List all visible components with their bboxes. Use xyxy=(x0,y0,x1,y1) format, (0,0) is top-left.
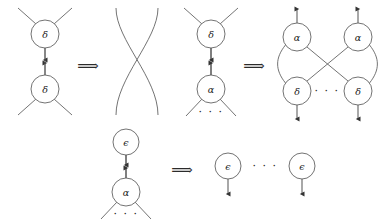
node-label-delta-bottom: δ xyxy=(42,84,48,95)
rule-1-lhs xyxy=(18,8,72,115)
node-label-delta-rule2: δ xyxy=(208,29,214,40)
ellipsis-rule3-lhs: · · · xyxy=(114,208,139,221)
implication-symbol-rule-1: ⟹ xyxy=(77,57,99,75)
node-label-epsilon-rhs-left: ϵ xyxy=(225,161,231,172)
ellipsis-rule3-rhs: · · · xyxy=(253,160,278,173)
port-top-right-wire xyxy=(54,8,72,24)
rule2-port-top-right-wire xyxy=(220,8,238,24)
node-label-alpha-rule2: α xyxy=(208,84,215,95)
node-label-alpha-rhs-left: α xyxy=(294,32,301,43)
rhs-outer-wire-right xyxy=(370,45,378,83)
ellipsis-rule2-rhs: · · · xyxy=(315,85,340,98)
figure-canvas: δ δ ⟹ δ α · · · xyxy=(0,0,381,222)
node-label-epsilon-rule3: ϵ xyxy=(123,137,129,148)
port-top-left-wire xyxy=(18,8,36,24)
node-label-epsilon-rhs-right: ϵ xyxy=(299,161,305,172)
implication-symbol-rule-2: ⟹ xyxy=(243,57,265,75)
node-label-delta-rhs-right: δ xyxy=(355,86,361,97)
rule2-port-top-left-wire xyxy=(184,8,202,24)
crossing-wire-a xyxy=(116,8,158,115)
port-bottom-left-wire xyxy=(18,99,36,115)
diagram-strokes: δ δ ⟹ δ α · · · xyxy=(18,8,377,221)
node-label-alpha-rhs-right: α xyxy=(355,32,362,43)
node-label-delta-top: δ xyxy=(42,29,48,40)
rule-1-rhs-crossing xyxy=(116,8,158,115)
port-bottom-right-wire xyxy=(54,99,72,115)
rule-2-lhs xyxy=(184,8,238,116)
node-label-delta-rhs-left: δ xyxy=(294,86,300,97)
rule-2-rhs xyxy=(278,9,378,119)
implication-symbol-rule-3: ⟹ xyxy=(171,161,193,179)
ellipsis-rule2-lhs: · · · xyxy=(199,106,224,119)
rhs-outer-wire-left xyxy=(278,45,286,83)
crossing-wire-b xyxy=(116,8,158,115)
node-label-alpha-rule3: α xyxy=(123,187,130,198)
